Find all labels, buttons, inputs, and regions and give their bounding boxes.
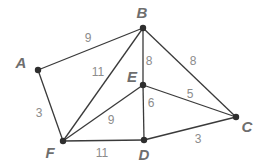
edge-weight-b-e: 8: [146, 54, 153, 68]
node-label-d: D: [139, 146, 150, 163]
edge-weight-e-c: 5: [187, 87, 194, 101]
node-c: [233, 114, 239, 120]
edge-weight-b-c: 8: [190, 54, 197, 68]
edge-weight-d-c: 3: [195, 132, 202, 146]
edge-f-d: [63, 140, 144, 141]
node-a: [35, 67, 41, 73]
edge-d-c: [144, 117, 236, 140]
edge-weight-f-d: 11: [96, 146, 109, 160]
weighted-graph-diagram: 931188569113 ABCDEF: [0, 0, 261, 166]
edge-f-e: [63, 85, 143, 141]
edge-weight-a-b: 9: [85, 31, 92, 45]
edge-weight-a-f: 3: [36, 106, 43, 120]
edge-weight-e-d: 6: [148, 96, 155, 110]
edge-e-d: [143, 85, 144, 140]
node-f: [60, 138, 66, 144]
node-label-e: E: [127, 68, 138, 85]
node-label-a: A: [15, 54, 27, 71]
edge-weight-f-e: 9: [108, 113, 115, 127]
node-labels-layer: ABCDEF: [15, 4, 254, 163]
node-label-b: B: [137, 4, 148, 21]
node-label-f: F: [45, 144, 55, 161]
node-b: [140, 25, 146, 31]
node-e: [140, 82, 146, 88]
edge-weight-f-b: 11: [92, 65, 105, 79]
node-d: [141, 137, 147, 143]
node-label-c: C: [242, 118, 254, 135]
edge-b-c: [143, 28, 236, 117]
